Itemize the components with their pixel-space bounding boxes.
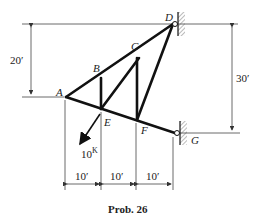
node-label-a: A — [55, 86, 63, 98]
node-label-c: C — [131, 40, 139, 52]
dim-label-span-2: 10′ — [110, 170, 123, 182]
support-d — [173, 12, 186, 36]
node-label-f: F — [140, 124, 148, 136]
node-label-b: B — [93, 62, 100, 74]
support-g — [175, 121, 188, 145]
figure-caption: Prob. 26 — [108, 203, 148, 215]
member-a-g-bottom-chord — [66, 97, 175, 133]
member-e-c — [101, 58, 139, 109]
load-arrow-icon — [80, 114, 100, 144]
dim-label-span-1: 10′ — [75, 170, 88, 182]
load-label: 10K — [81, 146, 98, 160]
truss-diagram: 10K A B C D E F G 20′ 30′ 10′ 10′ 10′ Pr… — [0, 0, 258, 221]
dim-label-20: 20′ — [10, 54, 23, 66]
node-label-g: G — [191, 134, 199, 146]
member-f-d — [137, 24, 173, 120]
dim-label-span-3: 10′ — [146, 170, 159, 182]
node-label-d: D — [164, 11, 173, 23]
dim-label-30: 30′ — [236, 72, 249, 84]
node-label-e: E — [103, 116, 111, 128]
truss-members — [66, 24, 175, 133]
